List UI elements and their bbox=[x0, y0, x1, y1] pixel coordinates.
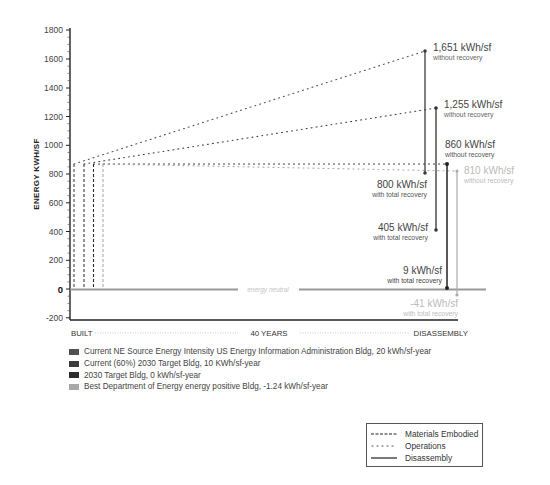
tick-neg200: -200 bbox=[46, 313, 63, 323]
key-label: Disassembly bbox=[405, 453, 452, 463]
annotation-9: 9 kWh/sf bbox=[403, 265, 442, 276]
annotation-1255-sub: without recovery bbox=[443, 111, 494, 119]
legend-swatch bbox=[69, 372, 79, 378]
annotation-1651: 1,651 kWh/sf bbox=[433, 42, 492, 53]
key-item-operations: Operations bbox=[367, 440, 482, 452]
tick-1400: 1400 bbox=[44, 83, 63, 93]
operations-line-series4 bbox=[103, 164, 457, 171]
annotation-neg41: -41 kWh/sf bbox=[410, 298, 458, 309]
tick-400: 400 bbox=[49, 227, 63, 237]
legend-label: 2030 Target Bldg, 0 kWh/sf-year bbox=[84, 371, 201, 380]
annotations: 1,651 kWh/sf without recovery 1,255 kWh/… bbox=[371, 42, 514, 318]
annotation-405: 405 kWh/sf bbox=[378, 222, 428, 233]
legend-label: Current (60%) 2030 Target Bldg, 10 KWh/s… bbox=[84, 359, 260, 368]
tick-600: 600 bbox=[49, 198, 63, 208]
series-legend: Current NE Source Energy Intensity US En… bbox=[69, 346, 431, 393]
y-axis-label: ENERGY KWH/SF bbox=[32, 138, 41, 209]
line-style-key: Materials Embodied Operations Disassembl… bbox=[366, 423, 483, 467]
legend-item: 2030 Target Bldg, 0 kWh/sf-year bbox=[69, 369, 431, 381]
annotation-1651-sub: without recovery bbox=[432, 54, 483, 62]
legend-swatch bbox=[69, 349, 79, 355]
operations-line-series1 bbox=[74, 51, 425, 164]
legend-item: Best Department of Energy energy positiv… bbox=[69, 381, 431, 393]
timeline: BUILT 40 YEARS DISASSEMBLY bbox=[71, 329, 469, 338]
legend-swatch bbox=[69, 384, 79, 390]
legend-item: Current (60%) 2030 Target Bldg, 10 KWh/s… bbox=[69, 358, 431, 370]
solid-line-icon bbox=[371, 456, 397, 460]
energy-chart: 1800 1600 1400 1200 1000 800 600 400 200… bbox=[0, 0, 550, 345]
annotation-810-sub: without recovery bbox=[463, 177, 514, 185]
key-item-disassembly: Disassembly bbox=[367, 452, 482, 464]
timeline-built: BUILT bbox=[71, 329, 93, 338]
annotation-9-sub: with total recovery bbox=[386, 277, 442, 285]
annotation-800: 800 kWh/sf bbox=[377, 179, 427, 190]
annotation-1255: 1,255 kWh/sf bbox=[444, 99, 503, 110]
tick-1600: 1600 bbox=[44, 54, 63, 64]
annotation-860: 860 kWh/sf bbox=[445, 139, 495, 150]
key-label: Operations bbox=[405, 441, 446, 451]
operations-line-series2 bbox=[84, 108, 436, 164]
legend-label: Current NE Source Energy Intensity US En… bbox=[84, 347, 431, 356]
embodied-lines bbox=[74, 164, 103, 289]
disassembly-lines bbox=[423, 49, 458, 296]
tick-200: 200 bbox=[49, 255, 63, 265]
annotation-800-sub: with total recovery bbox=[371, 191, 427, 199]
operations-lines bbox=[74, 51, 457, 171]
timeline-disassembly: DISASSEMBLY bbox=[414, 329, 469, 338]
energy-neutral-label: energy neutral bbox=[247, 286, 289, 294]
legend-item: Current NE Source Energy Intensity US En… bbox=[69, 346, 431, 358]
legend-label: Best Department of Energy energy positiv… bbox=[84, 382, 328, 391]
timeline-40-years: 40 YEARS bbox=[250, 329, 287, 338]
key-label: Materials Embodied bbox=[405, 429, 478, 439]
tick-1000: 1000 bbox=[44, 140, 63, 150]
legend-swatch bbox=[69, 361, 79, 367]
tick-0: 0 bbox=[58, 284, 63, 295]
key-item-embodied: Materials Embodied bbox=[367, 428, 482, 440]
tick-1200: 1200 bbox=[44, 112, 63, 122]
dashed-line-icon bbox=[371, 432, 397, 436]
y-tick-labels: 1800 1600 1400 1200 1000 800 600 400 200… bbox=[44, 25, 63, 323]
dotted-line-icon bbox=[371, 444, 397, 448]
tick-800: 800 bbox=[49, 169, 63, 179]
annotation-neg41-sub: with total recovery bbox=[402, 310, 458, 318]
annotation-860-sub: without recovery bbox=[444, 151, 495, 159]
tick-1800: 1800 bbox=[44, 25, 63, 35]
annotation-405-sub: with total recovery bbox=[372, 234, 428, 242]
annotation-810: 810 kWh/sf bbox=[464, 165, 514, 176]
